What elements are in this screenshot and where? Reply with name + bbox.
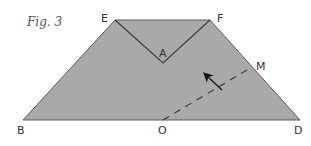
geometry-figure: Fig. 3 E F A M B O D (0, 0, 311, 146)
label-M: M (256, 60, 266, 73)
label-B: B (17, 124, 25, 137)
label-A: A (159, 47, 167, 60)
label-F: F (217, 12, 223, 25)
label-E: E (101, 12, 108, 25)
label-O: O (158, 124, 167, 137)
label-D: D (294, 124, 302, 137)
figure-caption: Fig. 3 (26, 15, 62, 29)
